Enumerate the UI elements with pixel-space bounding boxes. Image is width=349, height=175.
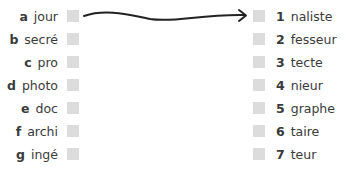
item-number: 6	[276, 124, 285, 139]
item-word: teur	[291, 147, 317, 162]
item-word: tecte	[291, 55, 323, 70]
item-number: 5	[276, 101, 285, 116]
right-item-1: 1 naliste	[253, 6, 332, 26]
item-number: 4	[276, 78, 285, 93]
item-word: naliste	[291, 9, 333, 24]
item-number: 2	[276, 32, 285, 47]
match-checkbox[interactable]	[253, 56, 265, 68]
item-number: 3	[276, 55, 285, 70]
match-checkbox[interactable]	[253, 102, 265, 114]
right-item-4: 4 nieur	[253, 75, 323, 95]
item-number: 7	[276, 147, 285, 162]
right-item-5: 5 graphe	[253, 98, 335, 118]
match-checkbox[interactable]	[253, 148, 265, 160]
item-word: taire	[291, 124, 320, 139]
right-item-2: 2 fesseur	[253, 29, 337, 49]
match-checkbox[interactable]	[253, 79, 265, 91]
match-checkbox[interactable]	[253, 10, 265, 22]
item-number: 1	[276, 9, 285, 24]
right-item-6: 6 taire	[253, 121, 319, 141]
match-checkbox[interactable]	[253, 125, 265, 137]
match-checkbox[interactable]	[253, 33, 265, 45]
right-item-7: 7 teur	[253, 144, 316, 164]
item-word: fesseur	[291, 32, 337, 47]
item-word: graphe	[291, 101, 335, 116]
item-word: nieur	[291, 78, 323, 93]
right-item-3: 3 tecte	[253, 52, 323, 72]
